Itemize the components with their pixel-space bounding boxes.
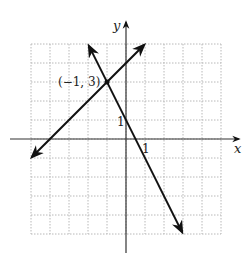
coordinate-graph: x y 1 1 (−1, 3) bbox=[0, 0, 247, 255]
intersection-label: (−1, 3) bbox=[58, 75, 100, 89]
x-axis-label: x bbox=[234, 141, 242, 156]
y-axis-label: y bbox=[112, 18, 121, 33]
intersection-point bbox=[105, 80, 110, 85]
